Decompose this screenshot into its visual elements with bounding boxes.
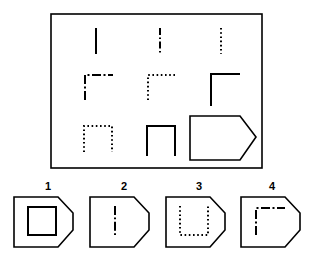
option-3[interactable] — [166, 197, 225, 247]
option-3-label: 3 — [189, 180, 209, 192]
option-1-outline — [14, 197, 73, 247]
option-4-label: 4 — [262, 180, 282, 192]
option-2-label: 2 — [114, 180, 134, 192]
option-4[interactable] — [241, 197, 300, 247]
option-1-label: 1 — [38, 180, 58, 192]
option-4-outline — [241, 197, 300, 247]
option-2-outline — [90, 197, 149, 247]
option-2[interactable] — [90, 197, 149, 247]
option-3-outline — [166, 197, 225, 247]
option-1[interactable] — [14, 197, 73, 247]
matrix-reasoning-puzzle — [0, 0, 323, 262]
